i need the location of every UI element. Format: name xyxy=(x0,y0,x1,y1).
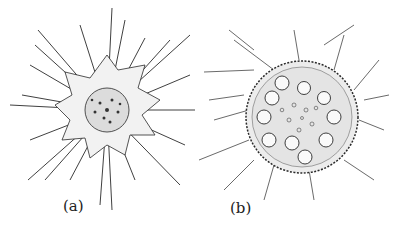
panel-a-label: (a) xyxy=(63,197,84,215)
panel-b-illustration xyxy=(194,0,394,226)
radiolarian-b-drawing xyxy=(194,0,394,226)
panel-b-label: (b) xyxy=(230,199,251,217)
radiolarian-a-drawing xyxy=(0,0,200,226)
panel-a-illustration xyxy=(0,0,200,226)
